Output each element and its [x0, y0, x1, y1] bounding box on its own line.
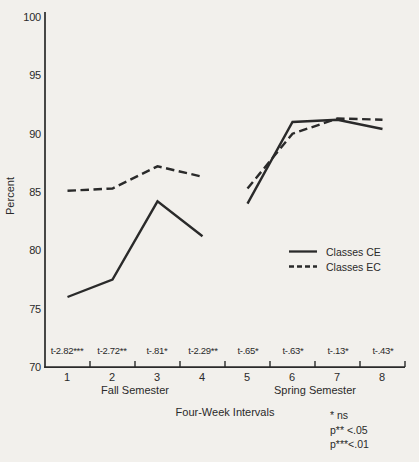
- x-tick-label: 7: [322, 371, 352, 383]
- x-tick-label: 3: [142, 371, 172, 383]
- footnote-line: p***<.01: [330, 437, 369, 452]
- y-tick-label: 90: [0, 128, 41, 140]
- legend-label-classes-ec: Classes EC: [326, 261, 381, 273]
- legend-dashed-line-icon: [288, 264, 318, 269]
- group-label-fall: Fall Semester: [85, 384, 185, 396]
- x-tick-label: 1: [52, 371, 82, 383]
- legend-label-classes-ce: Classes CE: [326, 246, 381, 258]
- x-axis-title: Four-Week Intervals: [145, 406, 305, 418]
- x-tick-label: 6: [277, 371, 307, 383]
- classes-ce-line-segment: [68, 201, 203, 297]
- chart-figure: Percent 100 95 90 85 80 75 70 t-2.82*** …: [0, 0, 419, 462]
- classes-ce-line-segment: [248, 120, 383, 204]
- footnotes: * ns p** <.05 p***<.01: [330, 408, 369, 452]
- x-tick-label: 2: [97, 371, 127, 383]
- legend: Classes CE Classes EC: [288, 244, 381, 274]
- classes-ec-line-segment: [68, 166, 203, 191]
- y-tick-label: 85: [0, 186, 41, 198]
- classes-ec-line-segment: [248, 119, 383, 189]
- footnote-line: * ns: [330, 408, 369, 423]
- y-tick-label: 70: [0, 361, 41, 373]
- x-tick-label: 5: [232, 371, 262, 383]
- x-tick-label: 4: [187, 371, 217, 383]
- legend-row: Classes EC: [288, 259, 381, 274]
- footnote-line: p** <.05: [330, 423, 369, 438]
- t-annotation: t-.43*: [356, 345, 410, 356]
- legend-solid-line-icon: [288, 249, 318, 254]
- y-tick-label: 95: [0, 69, 41, 81]
- group-label-spring: Spring Semester: [260, 384, 370, 396]
- y-tick-label: 75: [0, 303, 41, 315]
- legend-row: Classes CE: [288, 244, 381, 259]
- y-tick-label: 100: [0, 11, 41, 23]
- y-tick-label: 80: [0, 244, 41, 256]
- x-tick-label: 8: [367, 371, 397, 383]
